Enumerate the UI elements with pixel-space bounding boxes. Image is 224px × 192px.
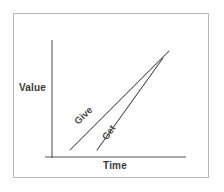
x-axis-label: Time xyxy=(103,161,127,171)
y-axis-label: Value xyxy=(19,83,46,93)
figure-root: Value Time Give Get xyxy=(0,0,224,192)
give-trend-line xyxy=(70,51,169,150)
